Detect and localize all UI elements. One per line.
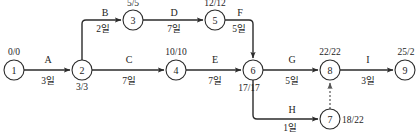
node-8-number: 8 — [328, 65, 333, 76]
node-9-time: 25/2 — [398, 47, 415, 57]
activity-c-name: C — [126, 54, 133, 65]
activity-b-name: B — [102, 7, 109, 18]
activity-d-duration: 7일 — [167, 24, 181, 34]
node-4[interactable]: 4 10/10 — [165, 47, 187, 80]
activity-a-name: A — [44, 54, 52, 65]
node-2-number: 2 — [80, 65, 85, 76]
node-5-time: 12/12 — [204, 0, 226, 8]
node-4-number: 4 — [174, 65, 179, 76]
activity-b-duration: 2일 — [96, 24, 110, 34]
node-5-number: 5 — [213, 15, 218, 26]
node-8-time: 22/22 — [319, 47, 341, 57]
activity-h-duration: 1일 — [283, 123, 297, 133]
node-7-time: 18/22 — [342, 115, 364, 125]
activity-g-duration: 5일 — [285, 76, 299, 86]
activity-a-duration: 3일 — [41, 76, 55, 86]
activity-c-duration: 7일 — [122, 76, 136, 86]
activity-f-duration: 5일 — [232, 24, 246, 34]
node-1-time: 0/0 — [8, 47, 20, 57]
activity-i-name: I — [366, 54, 369, 65]
activity-d-name: D — [170, 7, 177, 18]
activity-g-name: G — [288, 54, 295, 65]
node-6-time: 17/17 — [238, 83, 260, 93]
node-3-number: 3 — [131, 15, 136, 26]
network-diagram-svg: A 3일 B 2일 C 7일 D 7일 E 7일 F 5일 G 5일 H 1일 … — [0, 0, 417, 138]
node-7[interactable]: 7 18/22 — [320, 109, 364, 129]
node-9-number: 9 — [403, 65, 408, 76]
node-7-number: 7 — [328, 114, 333, 125]
node-1[interactable]: 1 0/0 — [4, 47, 24, 80]
network-diagram-canvas: A 3일 B 2일 C 7일 D 7일 E 7일 F 5일 G 5일 H 1일 … — [0, 0, 417, 138]
activity-f-name: F — [237, 7, 243, 18]
node-5[interactable]: 5 12/12 — [204, 0, 226, 30]
node-3-time: 5/5 — [127, 0, 139, 8]
activity-i-duration: 3일 — [361, 76, 375, 86]
node-1-number: 1 — [12, 65, 17, 76]
node-9[interactable]: 9 25/2 — [395, 47, 415, 80]
activity-e-name: E — [212, 54, 218, 65]
nodes-group: 1 0/0 2 3/3 3 5/5 4 10/10 — [4, 0, 415, 129]
node-6-number: 6 — [251, 65, 256, 76]
node-2[interactable]: 2 3/3 — [72, 60, 92, 92]
node-4-time: 10/10 — [165, 47, 187, 57]
activity-e-duration: 7일 — [208, 76, 222, 86]
node-3[interactable]: 3 5/5 — [123, 0, 143, 30]
node-2-time: 3/3 — [76, 82, 88, 92]
node-6[interactable]: 6 17/17 — [238, 60, 263, 93]
activity-h-name: H — [288, 104, 295, 115]
node-8[interactable]: 8 22/22 — [319, 47, 341, 80]
